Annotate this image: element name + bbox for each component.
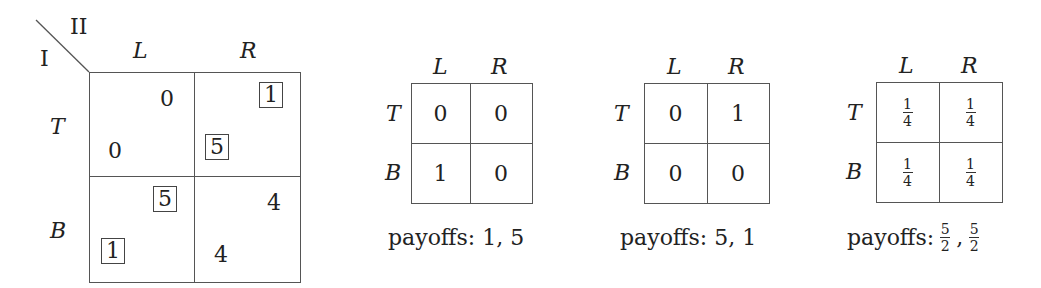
payoff-p2-TL: 0	[160, 88, 174, 110]
prob-BL: 1	[411, 143, 470, 203]
row-label-B: B	[614, 162, 630, 184]
payoff-frac-1: 52	[940, 222, 950, 253]
col-label-L: L	[133, 40, 148, 62]
col-label-L: L	[433, 56, 448, 78]
payoff-p2-BL-boxed: 5	[153, 186, 177, 212]
payoff-p2-BR: 4	[267, 192, 281, 214]
prob-TR: 14	[939, 82, 1002, 142]
prob-BL: 0	[644, 143, 707, 203]
row-label-B: B	[385, 162, 401, 184]
row-label-B: B	[50, 220, 66, 242]
row-label-B: B	[846, 161, 862, 183]
prob-TL: 0	[644, 83, 707, 143]
payoffs-caption: payoffs: 52, 52	[847, 222, 979, 253]
row-label-T: T	[847, 102, 862, 124]
payoff-p1-BL-boxed: 1	[101, 238, 125, 264]
payoff-p1-TR-boxed: 5	[205, 134, 229, 160]
player-row-label: I	[40, 48, 49, 70]
row-label-T: T	[614, 103, 629, 125]
matrix-divider-horizontal	[89, 176, 301, 177]
prob-TR: 0	[470, 83, 532, 143]
payoff-frac-2: 52	[969, 222, 979, 253]
payoffs-value: 1, 5	[482, 225, 524, 250]
prob-BL: 14	[876, 142, 939, 202]
col-label-R: R	[728, 56, 745, 78]
col-label-L: L	[899, 55, 914, 77]
payoff-p2-TR-boxed: 1	[259, 82, 283, 108]
payoff-p1-BR: 4	[214, 244, 228, 266]
payoffs-value: 5, 1	[714, 225, 756, 250]
col-label-R: R	[240, 40, 257, 62]
matrix-divider-vertical	[194, 72, 195, 283]
payoffs-label: payoffs:	[847, 227, 934, 249]
payoff-p1-TL: 0	[108, 140, 122, 162]
prob-BR: 0	[470, 143, 532, 203]
payoffs-label: payoffs:	[388, 225, 475, 250]
prob-TL: 0	[411, 83, 470, 143]
col-label-L: L	[667, 56, 682, 78]
prob-TR: 1	[707, 83, 769, 143]
row-label-T: T	[50, 116, 65, 138]
row-label-T: T	[386, 103, 401, 125]
player-col-label: II	[70, 16, 87, 38]
prob-BR: 14	[939, 142, 1002, 202]
payoffs-caption: payoffs: 5, 1	[620, 227, 756, 249]
col-label-R: R	[961, 55, 978, 77]
prob-BR: 0	[707, 143, 769, 203]
payoffs-label: payoffs:	[620, 225, 707, 250]
payoffs-caption: payoffs: 1, 5	[388, 227, 524, 249]
player-divider-diagonal	[0, 0, 100, 80]
col-label-R: R	[491, 56, 508, 78]
prob-TL: 14	[876, 82, 939, 142]
